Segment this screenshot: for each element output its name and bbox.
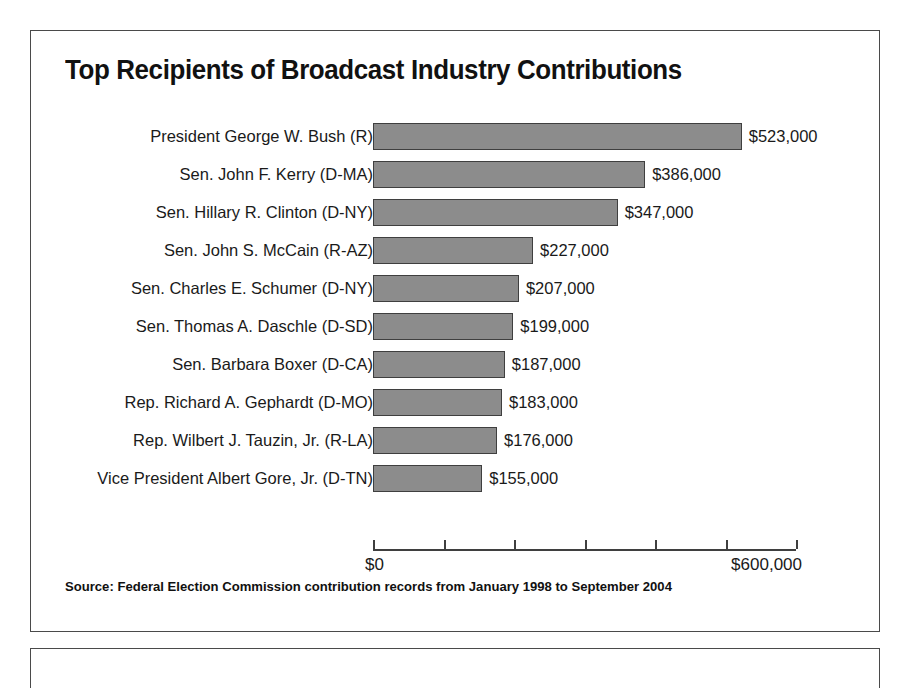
bar-row: Sen. Barbara Boxer (D-CA)$187,000 [31, 351, 881, 389]
x-axis-tick [726, 540, 728, 549]
category-label: President George W. Bush (R) [150, 123, 373, 150]
bar-value-label: $183,000 [502, 389, 578, 416]
x-axis-tick [796, 540, 798, 549]
bar-value-label: $227,000 [533, 237, 609, 264]
category-label: Sen. John F. Kerry (D-MA) [180, 161, 373, 188]
bar-value-label: $386,000 [645, 161, 721, 188]
bar-row: Sen. John F. Kerry (D-MA)$386,000 [31, 161, 881, 199]
x-axis-tick [585, 540, 587, 549]
bar [373, 275, 519, 302]
bar-row: Sen. Thomas A. Daschle (D-SD)$199,000 [31, 313, 881, 351]
chart-title: Top Recipients of Broadcast Industry Con… [65, 55, 814, 86]
x-axis-tick [444, 540, 446, 549]
bar [373, 237, 533, 264]
category-label: Vice President Albert Gore, Jr. (D-TN) [97, 465, 373, 492]
x-axis-tick-label: $600,000 [731, 555, 802, 575]
category-label: Sen. Barbara Boxer (D-CA) [172, 351, 373, 378]
bar-value-label: $347,000 [618, 199, 694, 226]
bar-value-label: $199,000 [513, 313, 589, 340]
bar-row: President George W. Bush (R)$523,000 [31, 123, 881, 161]
bar-row: Sen. Charles E. Schumer (D-NY)$207,000 [31, 275, 881, 313]
x-axis-tick [373, 540, 375, 549]
bar [373, 199, 618, 226]
x-axis-tick-label: $0 [365, 555, 384, 575]
next-panel-fragment [30, 648, 880, 688]
x-axis: $0$600,000 [373, 549, 796, 550]
category-label: Sen. Thomas A. Daschle (D-SD) [136, 313, 373, 340]
x-axis-tick [655, 540, 657, 549]
category-label: Rep. Richard A. Gephardt (D-MO) [125, 389, 374, 416]
bar [373, 313, 513, 340]
category-label: Sen. John S. McCain (R-AZ) [164, 237, 373, 264]
bar-row: Vice President Albert Gore, Jr. (D-TN)$1… [31, 465, 881, 503]
category-label: Sen. Hillary R. Clinton (D-NY) [156, 199, 373, 226]
bar [373, 389, 502, 416]
x-axis-line [373, 549, 796, 551]
bar [373, 465, 482, 492]
chart-panel: Top Recipients of Broadcast Industry Con… [30, 30, 880, 632]
bar-row: Rep. Richard A. Gephardt (D-MO)$183,000 [31, 389, 881, 427]
bar-value-label: $176,000 [497, 427, 573, 454]
bar-chart-plot-area: President George W. Bush (R)$523,000Sen.… [31, 123, 881, 563]
x-axis-tick [514, 540, 516, 549]
bar-row: Sen. Hillary R. Clinton (D-NY)$347,000 [31, 199, 881, 237]
bar-value-label: $187,000 [505, 351, 581, 378]
category-label: Sen. Charles E. Schumer (D-NY) [131, 275, 373, 302]
bar-value-label: $207,000 [519, 275, 595, 302]
bar-row: Sen. John S. McCain (R-AZ)$227,000 [31, 237, 881, 275]
bar [373, 427, 497, 454]
bar [373, 161, 645, 188]
category-label: Rep. Wilbert J. Tauzin, Jr. (R-LA) [133, 427, 373, 454]
bar-value-label: $523,000 [742, 123, 818, 150]
source-note: Source: Federal Election Commission cont… [65, 579, 672, 594]
bar-value-label: $155,000 [482, 465, 558, 492]
bar [373, 123, 742, 150]
bar [373, 351, 505, 378]
bar-row: Rep. Wilbert J. Tauzin, Jr. (R-LA)$176,0… [31, 427, 881, 465]
